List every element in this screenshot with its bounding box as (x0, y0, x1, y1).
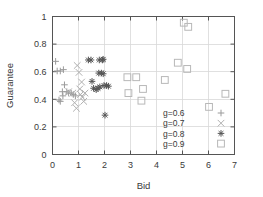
series-g-0-9 (124, 19, 229, 110)
data-point-plus (56, 97, 63, 104)
x-tick-label: 4 (154, 160, 159, 170)
legend-label-g-0-8: g=0.8 (163, 129, 185, 139)
data-point-cross (82, 90, 89, 97)
y-tick-label: 0.8 (34, 39, 47, 49)
x-axis-label: Bid (137, 180, 151, 191)
data-point-cross (74, 62, 81, 69)
legend-label-g-0-7: g=0.7 (163, 118, 185, 128)
data-point-square (180, 19, 187, 26)
data-point-star (100, 56, 107, 63)
data-point-square (218, 140, 225, 147)
data-point-square (124, 74, 131, 81)
data-point-square (222, 90, 229, 97)
y-tick-label: 0.2 (34, 122, 47, 132)
y-axis-label: Guarantee (4, 63, 15, 108)
y-tick-label: 0 (41, 150, 46, 160)
data-point-square (138, 97, 145, 104)
x-tick-label: 7 (232, 160, 237, 170)
data-point-cross (218, 120, 225, 127)
data-point-cross (76, 69, 83, 76)
x-tick-label: 3 (128, 160, 133, 170)
x-tick-label: 2 (102, 160, 107, 170)
y-tick-label: 1 (41, 12, 46, 22)
data-point-square (133, 74, 140, 81)
y-tick-label: 0.4 (34, 95, 47, 105)
x-tick-label: 0 (50, 160, 55, 170)
x-tick-label: 1 (76, 160, 81, 170)
x-tick-label: 5 (180, 160, 185, 170)
data-point-star (100, 70, 107, 77)
scatter-chart-figure: 01234567 00.20.40.60.81 g=0.6g=0.7g=0.8g… (0, 0, 263, 197)
series-g-0-7 (65, 62, 88, 111)
data-point-plus (57, 68, 64, 75)
data-point-cross (71, 99, 78, 106)
series-g-0-8 (85, 56, 112, 118)
x-axis-tick-labels: 01234567 (50, 160, 237, 170)
data-point-star (89, 78, 96, 85)
data-point-square (161, 77, 168, 84)
data-point-cross (78, 79, 85, 86)
chart-legend: g=0.6g=0.7g=0.8g=0.9 (163, 108, 224, 149)
legend-label-g-0-9: g=0.9 (163, 139, 185, 149)
chart-canvas: 01234567 00.20.40.60.81 g=0.6g=0.7g=0.8g… (0, 0, 263, 197)
series-g-0-6 (52, 58, 78, 105)
data-point-star (102, 112, 109, 119)
y-axis-tick-labels: 00.20.40.60.81 (34, 12, 47, 160)
legend-label-g-0-6: g=0.6 (163, 108, 185, 118)
data-point-square (206, 103, 213, 110)
data-point-square (174, 59, 181, 66)
data-point-star (218, 130, 225, 137)
data-point-star (88, 57, 95, 64)
data-point-plus (52, 58, 59, 65)
data-point-plus (218, 110, 225, 117)
x-tick-label: 6 (206, 160, 211, 170)
data-point-square (140, 86, 147, 93)
data-point-plus (61, 82, 68, 89)
data-point-square (185, 23, 192, 30)
y-tick-label: 0.6 (34, 67, 47, 77)
data-point-star (105, 83, 112, 90)
